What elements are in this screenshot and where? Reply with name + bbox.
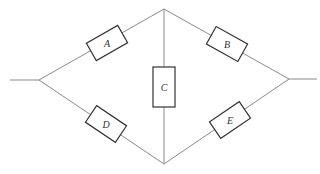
- component-e-label: E: [226, 115, 233, 126]
- component-a: A: [86, 25, 127, 60]
- component-d: D: [85, 106, 126, 143]
- component-a-label: A: [103, 38, 111, 49]
- component-c-label: C: [161, 82, 168, 93]
- component-c: C: [153, 67, 175, 107]
- component-e: E: [209, 102, 250, 139]
- component-b: B: [206, 26, 247, 61]
- component-d-label: D: [101, 119, 110, 130]
- bridge-circuit-diagram: A B C D E: [0, 0, 320, 174]
- component-b-label: B: [224, 39, 230, 50]
